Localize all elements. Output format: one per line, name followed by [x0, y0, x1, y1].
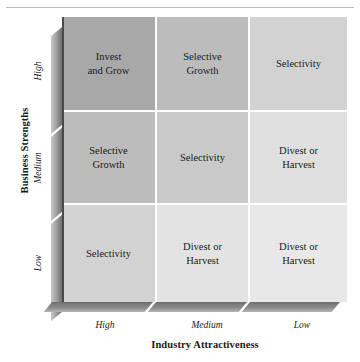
y-axis-title: Business Strengths [19, 81, 30, 221]
y-tick-low: Low [33, 233, 43, 293]
matrix-left-inner-edge [62, 17, 64, 302]
matrix-left-extrusion [51, 27, 62, 321]
matrix-cell-medium-low[interactable]: Divest or Harvest [250, 112, 347, 205]
matrix-cell-label: Divest or Harvest [179, 240, 226, 267]
matrix-grid: Invest and Grow Selective Growth Selecti… [62, 17, 347, 302]
matrix-cell-high-low[interactable]: Selectivity [250, 17, 347, 112]
x-tick-medium: Medium [162, 320, 252, 330]
matrix-cell-label: Selectivity [176, 151, 229, 164]
nine-box-matrix-figure: Business Strengths High Medium Low Indus… [0, 0, 360, 362]
matrix-cell-label: Selectivity [272, 57, 325, 70]
matrix-cell-label: Selectivity [82, 247, 135, 260]
matrix-cell-medium-medium[interactable]: Selectivity [157, 112, 250, 205]
matrix-cell-high-medium[interactable]: Selective Growth [157, 17, 250, 112]
matrix-cell-label: Divest or Harvest [275, 144, 322, 171]
x-tick-low: Low [262, 320, 342, 330]
matrix-cell-low-low[interactable]: Divest or Harvest [250, 205, 347, 302]
x-tick-high: High [60, 320, 150, 330]
matrix-cell-medium-high[interactable]: Selective Growth [62, 112, 157, 205]
matrix-bottom-extrusion [44, 302, 340, 312]
header-rule [6, 7, 354, 8]
matrix-cell-label: Selective Growth [179, 50, 225, 77]
matrix-cell-label: Selective Growth [85, 144, 131, 171]
y-tick-high: High [33, 41, 43, 101]
matrix-cell-low-medium[interactable]: Divest or Harvest [157, 205, 250, 302]
y-tick-medium: Medium [33, 138, 43, 198]
matrix-cell-label: Invest and Grow [84, 50, 134, 77]
matrix-cell-low-high[interactable]: Selectivity [62, 205, 157, 302]
matrix-cell-high-high[interactable]: Invest and Grow [62, 17, 157, 112]
matrix-cell-label: Divest or Harvest [275, 240, 322, 267]
x-axis-title: Industry Attractiveness [60, 339, 350, 350]
